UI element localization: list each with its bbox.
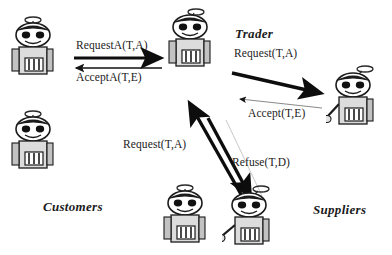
agent-supplier-bottom: [222, 184, 276, 250]
label-request-right: Request(T,A): [234, 47, 297, 59]
robot-head-icon: [16, 23, 50, 47]
robot-head-icon: [168, 191, 202, 215]
agent-supplier-right: [326, 64, 380, 130]
label-request-bottom: Request(T,A): [123, 138, 186, 150]
role-label-trader: Trader: [235, 27, 273, 41]
robot-head-icon: [336, 73, 370, 97]
robot-body-icon: [235, 217, 269, 244]
robot-arm-icon: [222, 225, 235, 242]
agent-trader: [163, 6, 217, 72]
label-refuse-bottom: Refuse(T,D): [232, 156, 290, 168]
robot-body-icon: [339, 97, 373, 124]
role-label-suppliers: Suppliers: [313, 203, 366, 217]
agent-supplier-mid: [158, 182, 212, 248]
label-accept-right: Accept(T,E): [248, 107, 305, 119]
label-request-a: RequestA(T,A): [76, 39, 148, 51]
robot-arm-icon: [326, 104, 339, 123]
arrow-request-right: [232, 73, 320, 93]
label-accept-a: AcceptA(T,E): [76, 71, 142, 83]
robot-head-icon: [232, 193, 266, 217]
robot-head-icon: [173, 15, 207, 39]
agent-customer-bottom: [6, 108, 60, 174]
robot-body-icon: [12, 141, 53, 168]
robot-body-icon: [169, 39, 210, 66]
robot-body-icon: [12, 47, 53, 74]
robot-head-icon: [16, 117, 50, 141]
agent-customer-top: [6, 14, 60, 80]
diagram-canvas: RequestA(T,A) AcceptA(T,E) Trader Reques…: [0, 0, 392, 255]
robot-body-icon: [164, 215, 205, 242]
role-label-customers: Customers: [43, 200, 103, 214]
